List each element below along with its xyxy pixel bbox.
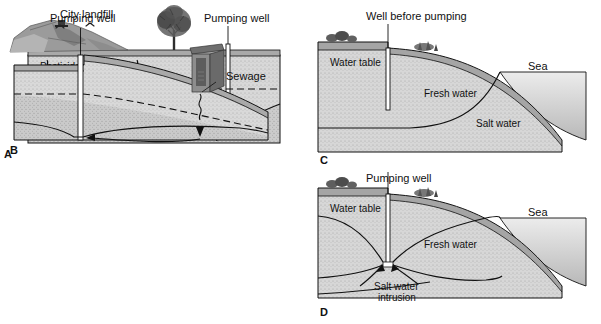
- label-water-table-d: Water table: [330, 203, 381, 214]
- label-sea-c: Sea: [528, 60, 548, 72]
- groundwater-figure: City landfill Pesticides, heavy metals, …: [0, 0, 601, 324]
- panel-letter-d: D: [320, 306, 328, 318]
- label-pumping-well-d: Pumping well: [366, 172, 431, 184]
- label-salt-water-intrusion-2: intrusion: [378, 292, 416, 303]
- label-salt-water-c: Salt water: [476, 118, 521, 129]
- label-fresh-water-c: Fresh water: [424, 88, 477, 99]
- label-fresh-water-d: Fresh water: [424, 239, 477, 250]
- label-salt-water-intrusion-1: Salt water: [374, 281, 419, 292]
- panel-letter-b: B: [10, 144, 18, 156]
- panel-c: Water table Fresh water Salt water Sea W…: [300, 0, 601, 165]
- label-well-before-pumping: Well before pumping: [366, 10, 467, 22]
- well-shaft-icon: [386, 24, 390, 110]
- well-shaft-icon: [78, 28, 83, 140]
- panel-d: Water table Fresh water Salt water intru…: [300, 160, 601, 324]
- label-water-table-c: Water table: [330, 57, 381, 68]
- label-sewage: Sewage: [226, 70, 266, 82]
- panel-b: Pumping well Sewage B: [0, 0, 300, 164]
- label-sea-d: Sea: [528, 206, 548, 218]
- outhouse-icon: [190, 44, 224, 92]
- label-pumping-well-b: Pumping well: [50, 12, 115, 24]
